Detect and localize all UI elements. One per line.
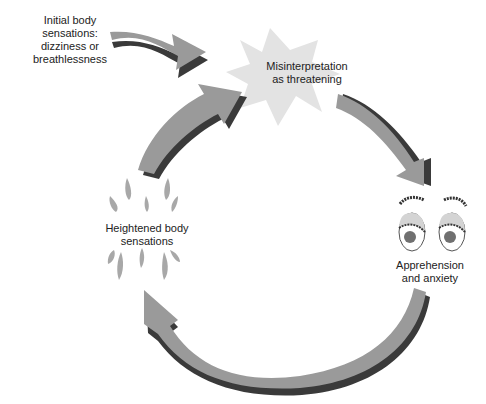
entry-label-line: Initial body [22,14,118,27]
worried-eyes-icon [399,197,466,251]
arrow-apprehension-to-heightened [144,288,430,396]
apprehension-label: Apprehension and anxiety [380,259,480,285]
arrow-heightened-to-misinterpretation [138,84,247,179]
node-label-line: and anxiety [380,272,480,285]
node-label-line: Apprehension [380,259,480,272]
node-label-line: sensations [92,235,202,248]
entry-label: Initial body sensations: dizziness or br… [22,14,118,66]
misinterpretation-label: Misinterpretation as threatening [252,60,362,86]
entry-label-line: sensations: [22,27,118,40]
node-label-line: Heightened body [92,222,202,235]
entry-label-line: breathlessness [22,53,118,66]
heightened-label: Heightened body sensations [92,222,202,248]
entry-arrow [110,32,208,78]
node-label-line: as threatening [252,73,362,86]
arrow-misinterpretation-to-apprehension [336,94,431,186]
node-label-line: Misinterpretation [252,60,362,73]
entry-label-line: dizziness or [22,40,118,53]
